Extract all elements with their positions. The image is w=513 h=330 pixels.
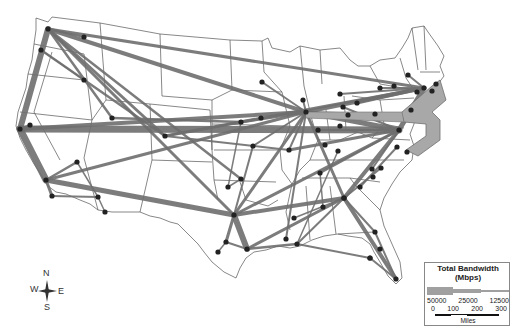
node-charlotte (357, 184, 362, 189)
node-seattle (45, 26, 50, 31)
node-memphis (317, 170, 322, 175)
node-boise (81, 77, 86, 82)
node-columbia (341, 195, 346, 200)
node-albany (405, 72, 410, 77)
node-birmingham (320, 204, 325, 209)
node-pittsburgh (372, 111, 377, 116)
node-rochester (391, 83, 396, 88)
node-raleigh (370, 174, 375, 179)
node-philly (414, 89, 419, 94)
node-spokane (81, 34, 86, 39)
compass-star-icon (30, 272, 64, 316)
node-detroit (340, 104, 345, 109)
node-la (43, 177, 48, 182)
node-neworleans (294, 241, 299, 246)
node-elpaso (225, 184, 230, 189)
node-baltimore (408, 107, 413, 112)
node-norfolk (404, 149, 409, 154)
network-links (20, 29, 446, 279)
node-boston (433, 81, 438, 86)
node-indianapolis (315, 127, 320, 132)
node-louisville (322, 142, 327, 147)
node-slc (109, 115, 114, 120)
node-buffalo (377, 85, 382, 90)
node-columbus (345, 112, 350, 117)
node-portland (38, 47, 43, 52)
legend-title: Total Bandwidth (Mbps) (425, 264, 511, 282)
node-nashville (335, 148, 340, 153)
bandwidth-bar-25000 (453, 289, 481, 293)
node-hartford (429, 88, 434, 93)
node-miami (393, 276, 398, 281)
compass-rose: N W E S (30, 272, 64, 316)
node-okc (238, 176, 243, 181)
node-tucson (102, 209, 107, 214)
node-lasvegas (74, 159, 79, 164)
node-batonrouge (283, 236, 288, 241)
distance-unit: Miles (425, 317, 511, 324)
node-tulsa (250, 143, 255, 148)
node-cincinnati (337, 123, 342, 128)
node-orlando (377, 246, 382, 251)
bandwidth-bar-12500 (481, 290, 509, 292)
node-richmond (394, 144, 399, 149)
node-stlouis (286, 147, 291, 152)
node-jacksonville (372, 229, 377, 234)
node-milwaukee (300, 97, 305, 102)
node-jackson (291, 215, 296, 220)
node-sacramento (27, 122, 32, 127)
node-cleveland (354, 100, 359, 105)
node-toledo (337, 91, 342, 96)
node-houston (244, 246, 249, 251)
node-austin (223, 239, 228, 244)
node-nyc (421, 85, 426, 90)
distance-scale-bar (435, 314, 499, 316)
node-dfw (231, 212, 236, 217)
distance-ticks: 0 100 200 300 (431, 305, 507, 312)
legend-total-bandwidth: Total Bandwidth (Mbps) 50000 25000 12500… (424, 262, 510, 326)
node-phoenix (95, 194, 100, 199)
node-sf (17, 126, 22, 131)
node-omaha (258, 115, 263, 120)
node-kc (238, 119, 243, 124)
node-dc (396, 127, 401, 132)
node-chicago (303, 109, 308, 114)
node-sanantonio (215, 249, 220, 254)
bandwidth-bar-50000 (427, 287, 453, 295)
node-sandiego (49, 193, 54, 198)
node-denver (162, 133, 167, 138)
node-tampa (367, 255, 372, 260)
node-greensboro (369, 166, 374, 171)
bandwidth-values: 50000 25000 12500 (427, 297, 509, 304)
node-durham (378, 165, 383, 170)
node-minneapolis (259, 79, 264, 84)
